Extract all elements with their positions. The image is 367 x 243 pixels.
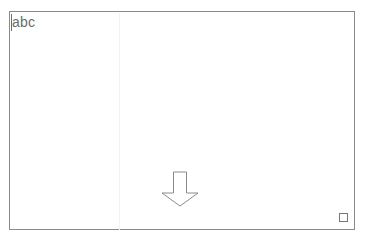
drawing-canvas[interactable]: abc <box>9 11 355 230</box>
resize-handle-bottom-right[interactable] <box>339 213 348 222</box>
down-arrow-icon[interactable] <box>161 171 199 207</box>
canvas-text-object[interactable]: abc <box>11 12 35 32</box>
vertical-guide-line <box>119 13 120 230</box>
app-root: abc <box>0 0 367 243</box>
canvas-text-label: abc <box>12 14 35 31</box>
